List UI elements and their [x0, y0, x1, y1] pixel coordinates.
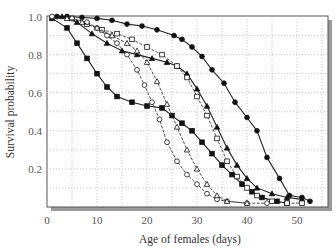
x-tick-label: 50 — [292, 214, 304, 226]
x-tick-label: 40 — [242, 214, 254, 226]
data-point-square — [145, 45, 150, 50]
data-point-square — [160, 52, 165, 57]
data-point-square — [200, 140, 205, 145]
data-point-square — [105, 85, 110, 90]
data-point-square — [100, 28, 105, 33]
y-tick-label: 0.6 — [28, 87, 42, 99]
data-point-circle — [255, 128, 260, 133]
data-point-square — [275, 199, 280, 204]
data-point-circle — [165, 140, 170, 145]
data-point-square — [160, 106, 165, 111]
data-point-circle — [135, 67, 140, 72]
y-axis-label: Survival probability — [4, 66, 17, 159]
data-point-square — [220, 163, 225, 168]
data-point-square — [245, 186, 250, 191]
data-point-circle — [55, 14, 60, 19]
data-point-square — [215, 136, 220, 141]
data-point-circle — [175, 159, 180, 164]
data-point-square — [255, 193, 260, 198]
data-point-circle — [140, 24, 145, 29]
data-point-circle — [265, 155, 270, 160]
data-point-square — [180, 121, 185, 126]
data-point-square — [230, 172, 235, 177]
y-tick-label: 0.8 — [28, 49, 42, 61]
data-point-square — [190, 129, 195, 134]
y-tick-label: 1.0 — [28, 11, 42, 23]
data-point-square — [115, 94, 120, 99]
data-point-circle — [190, 45, 195, 50]
data-point-circle — [205, 191, 210, 196]
data-point-circle — [125, 22, 130, 27]
data-point-circle — [110, 18, 115, 23]
y-tick-label: 0.2 — [28, 163, 42, 175]
data-point-circle — [155, 27, 160, 32]
data-point-circle — [50, 14, 55, 19]
x-tick-label: 20 — [142, 214, 154, 226]
x-axis-label: Age of females (days) — [139, 233, 241, 246]
data-point-square — [195, 94, 200, 99]
data-point-square — [205, 113, 210, 118]
data-point-circle — [245, 115, 250, 120]
data-point-square — [115, 31, 120, 36]
data-point-square — [130, 37, 135, 42]
data-point-square — [225, 159, 230, 164]
data-point-circle — [308, 199, 313, 204]
data-point-square — [175, 64, 180, 69]
data-point-circle — [142, 83, 147, 88]
data-point-square — [170, 113, 175, 118]
data-point-square — [235, 174, 240, 179]
data-point-circle — [195, 182, 200, 187]
x-tick-label: 10 — [92, 214, 104, 226]
data-point-square — [210, 151, 215, 156]
data-point-circle — [95, 16, 100, 21]
data-point-circle — [157, 117, 162, 122]
data-point-circle — [210, 67, 215, 72]
data-point-square — [85, 56, 90, 61]
data-point-circle — [172, 33, 177, 38]
data-point-circle — [233, 100, 238, 105]
data-point-circle — [185, 172, 190, 177]
x-tick-label: 0 — [44, 214, 50, 226]
data-point-circle — [265, 201, 270, 206]
y-tick-label: 0.4 — [28, 125, 42, 137]
data-point-square — [75, 41, 80, 46]
data-point-circle — [150, 100, 155, 105]
data-point-square — [65, 26, 70, 31]
survival-chart: 010203040500.20.40.60.81.0 Age of female… — [0, 0, 335, 252]
data-point-circle — [125, 52, 130, 57]
data-point-square — [270, 199, 275, 204]
data-point-circle — [222, 81, 227, 86]
data-point-circle — [200, 54, 205, 59]
data-point-square — [285, 201, 290, 206]
data-point-circle — [180, 37, 185, 42]
data-point-square — [185, 75, 190, 80]
data-point-square — [95, 71, 100, 76]
data-point-circle — [115, 41, 120, 46]
x-tick-label: 30 — [192, 214, 204, 226]
data-point-circle — [105, 33, 110, 38]
data-point-square — [300, 201, 305, 206]
data-point-square — [130, 100, 135, 105]
data-point-circle — [277, 176, 282, 181]
data-point-square — [145, 104, 150, 109]
